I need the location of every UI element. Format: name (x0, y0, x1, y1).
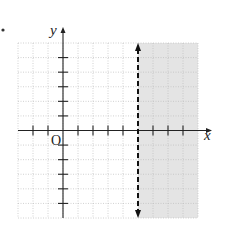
x-axis-label: x (203, 127, 211, 143)
item-marker (1, 28, 4, 31)
inequality-graph: x y O (0, 0, 225, 226)
origin-label: O (51, 133, 61, 148)
y-axis-label: y (48, 22, 57, 38)
